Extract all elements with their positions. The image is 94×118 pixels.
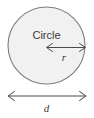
diameter-dimension-group: d bbox=[8, 92, 86, 115]
diameter-label: d bbox=[44, 102, 50, 114]
diagram-canvas: Circle r d bbox=[0, 0, 94, 118]
circle-label: Circle bbox=[32, 29, 60, 41]
circle-shape bbox=[8, 7, 85, 84]
circle-diagram: Circle r d bbox=[0, 0, 94, 118]
radius-label: r bbox=[62, 51, 67, 63]
